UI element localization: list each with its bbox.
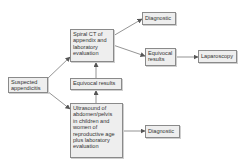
arrow-ct-to-equivocal	[113, 45, 145, 56]
node-equivocal-results-middle: Equivocal results	[70, 78, 122, 90]
node-diagnostic-bottom: Diagnostic	[145, 125, 180, 138]
arrow-ct-to-diagnostic	[113, 19, 142, 36]
node-spiral-ct: Spiral CT of appendix and laboratory eva…	[70, 29, 114, 62]
node-equivocal-results-right: Equivocal results	[145, 48, 176, 66]
node-ultrasound: Ultrasound of abdomen/pelvis in children…	[70, 103, 123, 158]
arrow-start-to-ct	[47, 57, 70, 79]
node-diagnostic-top: Diagnostic	[142, 12, 176, 25]
arrow-start-to-ultrasound	[47, 91, 70, 109]
node-suspected-appendicitis: Suspected appendicitis	[8, 77, 48, 93]
node-laparoscopy: Laparoscopy	[198, 50, 237, 63]
